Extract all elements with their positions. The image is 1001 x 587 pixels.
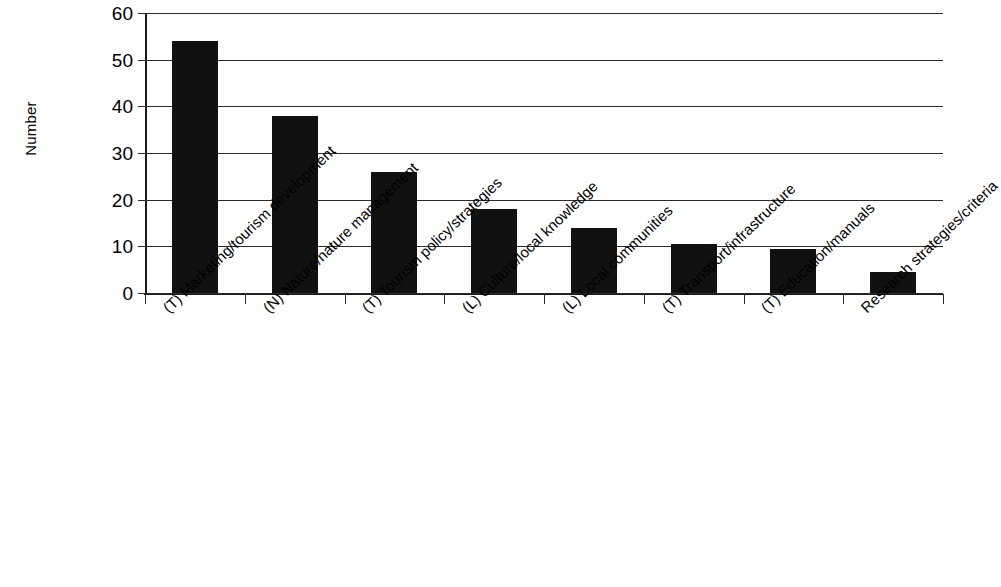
x-tick-mark-3: [444, 294, 445, 304]
x-tick-mark-2: [345, 294, 346, 304]
y-tick-label-40: 40: [112, 97, 133, 116]
y-tick-label-60: 60: [112, 4, 133, 23]
y-tick-mark-10: [138, 246, 145, 247]
y-tick-label-50: 50: [112, 50, 133, 69]
x-tick-mark-6: [744, 294, 745, 304]
x-tick-mark-8: [943, 294, 944, 304]
gridline-60: [145, 13, 943, 14]
y-tick-mark-60: [138, 13, 145, 14]
x-tick-mark-5: [644, 294, 645, 304]
y-tick-label-30: 30: [112, 144, 133, 163]
gridline-30: [145, 153, 943, 154]
x-tick-mark-7: [843, 294, 844, 304]
x-tick-mark-1: [245, 294, 246, 304]
y-axis-title: Number: [22, 69, 39, 189]
y-tick-mark-50: [138, 60, 145, 61]
y-tick-label-10: 10: [112, 237, 133, 256]
y-tick-mark-40: [138, 106, 145, 107]
gridline-50: [145, 60, 943, 61]
y-tick-mark-0: [138, 293, 145, 294]
gridline-40: [145, 106, 943, 107]
x-tick-mark-0: [145, 294, 146, 304]
y-tick-label-0: 0: [122, 284, 133, 303]
y-tick-label-20: 20: [112, 190, 133, 209]
y-tick-mark-20: [138, 200, 145, 201]
x-tick-mark-4: [544, 294, 545, 304]
y-tick-mark-30: [138, 153, 145, 154]
